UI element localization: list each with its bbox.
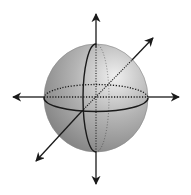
sphere-axes-diagram xyxy=(0,0,191,195)
depth-axis-upper-right xyxy=(132,38,153,60)
